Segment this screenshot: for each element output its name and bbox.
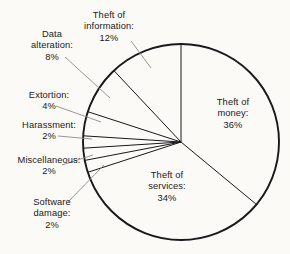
label-data-alteration-line1: Data [16, 29, 88, 40]
label-theft-of-money-line1: Theft of [202, 97, 264, 108]
label-harassment: Harassment: 2% [8, 120, 90, 143]
label-extortion: Extortion: 4% [13, 90, 85, 113]
label-harassment-line2: 2% [8, 131, 90, 142]
label-software-damage-line2: damage: [14, 208, 90, 219]
label-data-alteration-line2: alteration: [16, 40, 88, 51]
label-harassment-line1: Harassment: [8, 120, 90, 131]
label-theft-of-services-line1: Theft of [136, 170, 198, 181]
label-extortion-line2: 4% [13, 101, 85, 112]
label-miscellaneous: Miscellaneous: 2% [2, 155, 96, 178]
label-data-alteration-line3: 8% [16, 52, 88, 63]
label-theft-of-money: Theft of money: 36% [202, 97, 264, 131]
label-theft-of-money-line3: 36% [202, 120, 264, 131]
label-theft-of-money-line2: money: [202, 108, 264, 119]
label-theft-of-information-line1: Theft of [66, 10, 152, 21]
label-data-alteration: Data alteration: 8% [16, 29, 88, 63]
label-theft-of-services: Theft of services: 34% [136, 170, 198, 204]
label-software-damage: Software damage: 2% [14, 197, 90, 231]
label-software-damage-line1: Software [14, 197, 90, 208]
leader-line-theft-of-information [131, 41, 151, 68]
label-miscellaneous-line2: 2% [2, 166, 96, 177]
label-miscellaneous-line1: Miscellaneous: [2, 155, 96, 166]
label-theft-of-services-line2: services: [136, 181, 198, 192]
label-software-damage-line3: 2% [14, 220, 90, 231]
label-extortion-line1: Extortion: [13, 90, 85, 101]
label-theft-of-services-line3: 34% [136, 193, 198, 204]
pie-chart-figure: Theft of information: 12% Data alteratio… [0, 0, 290, 254]
